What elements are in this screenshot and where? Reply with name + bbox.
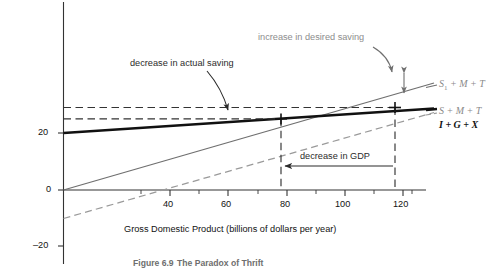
guides-original-equilibrium [64, 108, 396, 191]
curve-label-s1-m-t: S1 + M + T [439, 78, 485, 92]
leader-decrease-actual-saving [207, 71, 228, 110]
x-tick-40: 40 [163, 199, 173, 209]
figure-caption-number: Figure 6.9 [133, 258, 174, 268]
y-tick-0: 0 [46, 184, 51, 194]
label-connectors [426, 85, 437, 115]
x-tick-100: 100 [335, 199, 350, 209]
equilibrium-point-new [275, 114, 287, 125]
curve-label-s-m-t: S + M + T [439, 105, 481, 116]
annotation-decrease-gdp: decrease in GDP [298, 151, 372, 161]
paradox-of-thrift-figure: Planned Withdrawals, Injections (billion… [0, 0, 494, 269]
y-tick-neg20: –20 [33, 240, 48, 250]
curve-i-g-x [64, 109, 435, 134]
x-tick-120: 120 [393, 199, 408, 209]
y-axis [58, 2, 64, 264]
guides-new-equilibrium [64, 119, 282, 190]
leader-increase-desired-saving [373, 47, 392, 72]
figure-caption-title: The Paradox of Thrift [177, 258, 263, 268]
x-tick-60: 60 [221, 199, 231, 209]
annotation-decrease-actual-saving: decrease in actual saving [130, 58, 234, 68]
x-axis [64, 190, 427, 196]
curve-s1-m-t [64, 83, 435, 190]
annotation-increase-desired-saving: increase in desired saving [258, 32, 364, 42]
x-tick-80: 80 [280, 199, 290, 209]
y-tick-20: 20 [38, 127, 48, 137]
curve-label-s1-rest: + M + T [448, 78, 485, 89]
curve-label-i-g-x: I + G + X [439, 119, 478, 130]
x-axis-title: Gross Domestic Product (billions of doll… [124, 224, 336, 234]
